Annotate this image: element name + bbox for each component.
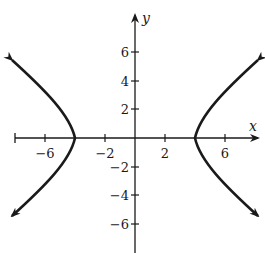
y-tick-label: 6 [121,45,129,60]
y-tick-label: −4 [110,188,129,203]
x-axis-label: x [249,118,257,134]
y-tick-label: 4 [121,74,129,89]
x-tick-label: 6 [221,146,229,161]
y-axis-label: y [141,10,151,26]
y-tick-label: 2 [121,102,129,117]
y-tick-label: −6 [110,217,129,232]
x-tick-label: −2 [95,146,114,161]
hyperbola-plot: −6 −2 2 6 6 4 2 −2 −4 −6 x y [0,0,265,253]
y-tick-label: −2 [110,160,129,175]
x-tick-label: 2 [161,146,169,161]
x-tick-label: −6 [35,146,54,161]
